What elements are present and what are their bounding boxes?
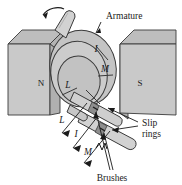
rotation-arrow xyxy=(43,8,64,19)
pole-label-north: N xyxy=(38,78,45,88)
magnet-south: S xyxy=(120,30,176,119)
label-brushes: Brushes xyxy=(97,173,128,183)
figure-container: N S I M L xyxy=(0,0,182,185)
pole-label-south: S xyxy=(137,78,142,88)
label-slip-rings-line2: rings xyxy=(142,129,161,139)
magnet-south-top-face xyxy=(120,30,176,44)
rotation-arrow-head xyxy=(43,12,48,19)
force-label-M: M xyxy=(83,147,93,157)
force-label-I: I xyxy=(73,129,78,139)
generator-diagram: N S I M L xyxy=(0,0,182,185)
force-arrow-M: M xyxy=(83,131,110,167)
coil-label-M-top: M xyxy=(100,64,110,74)
label-armature: Armature xyxy=(106,11,142,21)
magnet-south-front-face xyxy=(120,44,176,115)
force-label-L: L xyxy=(58,115,64,125)
armature-leader xyxy=(96,22,101,33)
label-slip-rings-line1: Slip xyxy=(142,118,158,128)
coil-label-L-top: L xyxy=(64,80,70,90)
